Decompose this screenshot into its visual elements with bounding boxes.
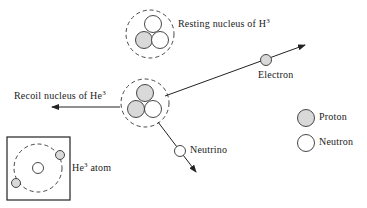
neutrino-particle: [175, 146, 186, 157]
legend-neutron-label: Neutron: [319, 136, 353, 147]
he3-atom: [7, 137, 70, 200]
beta-decay-diagram: [0, 0, 367, 208]
legend-proton-label: Proton: [319, 111, 347, 122]
resting-nucleus-label: Resting nucleus of H3: [178, 18, 270, 29]
recoil-nucleus-label: Recoil nucleus of He3: [14, 90, 106, 101]
legend-proton-icon: [298, 110, 315, 127]
resting-h3-nucleus: [126, 10, 174, 58]
legend-neutron-icon: [298, 135, 315, 152]
he3-atom-label: He3 atom: [72, 162, 111, 173]
electron-particle: [261, 55, 272, 66]
recoil-he3-nucleus: [121, 79, 169, 127]
electron-label: Electron: [258, 69, 293, 80]
neutrino-label: Neutrino: [190, 144, 227, 155]
